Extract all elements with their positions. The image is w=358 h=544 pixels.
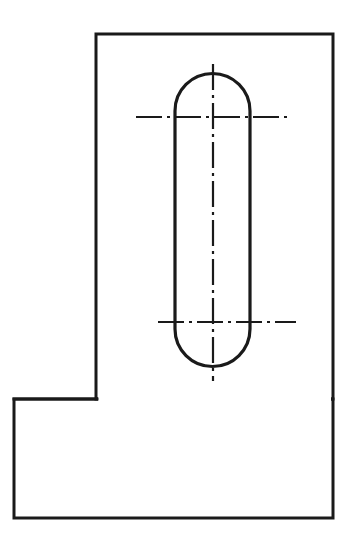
base-plate-outline: [14, 399, 333, 518]
drawing-svg: [0, 0, 358, 544]
technical-drawing-canvas: [0, 0, 358, 544]
upright-plate-outline: [96, 34, 333, 399]
junction-mask: [98, 397, 331, 402]
